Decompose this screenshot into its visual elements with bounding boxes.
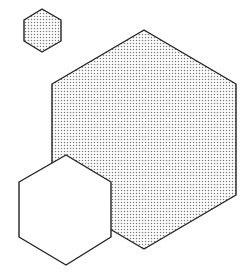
- small-dotted-hexagon: [24, 9, 61, 52]
- hexagon-diagram: [0, 0, 252, 277]
- diagram-canvas: [0, 0, 252, 277]
